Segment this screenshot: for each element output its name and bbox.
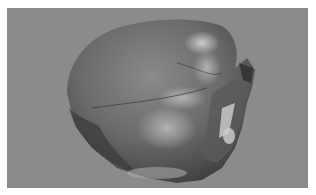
specimen-photo — [7, 8, 308, 188]
heart-specimen-illustration — [7, 8, 308, 188]
